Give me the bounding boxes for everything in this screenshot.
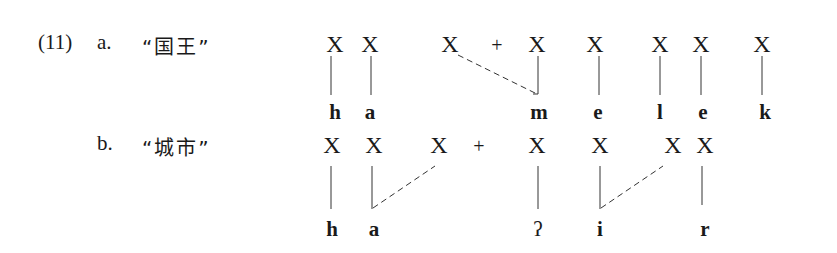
spreading-line-dashed [373,166,435,208]
association-line [533,56,538,94]
association-lines [0,0,837,253]
spreading-line-dashed [458,55,537,94]
spreading-line-dashed [601,166,663,208]
